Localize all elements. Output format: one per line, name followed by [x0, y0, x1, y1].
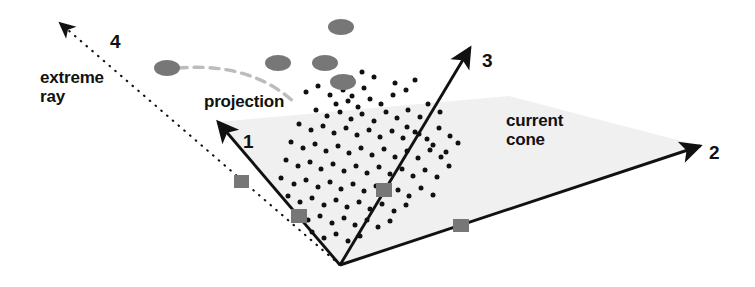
data-point-dot: [322, 236, 327, 241]
data-point-dot: [350, 94, 355, 99]
data-point-dot: [448, 134, 453, 139]
data-point-dot: [353, 223, 358, 228]
data-point-dot: [313, 142, 318, 147]
extreme-ray-label: extreme ray: [40, 68, 104, 106]
data-point-dot: [355, 133, 360, 138]
data-point-dot: [370, 153, 375, 158]
data-point-dot: [406, 108, 411, 113]
data-point-dot: [425, 137, 430, 142]
outer-point-ellipse: [330, 74, 356, 90]
data-point-dot: [405, 125, 410, 130]
data-point-dot: [393, 81, 398, 86]
data-point-dot: [376, 225, 381, 230]
data-point-dot: [334, 232, 339, 237]
data-point-dot: [426, 102, 431, 107]
data-point-dot: [367, 128, 372, 133]
data-point-dot: [304, 178, 309, 183]
projected-point-square: [453, 219, 469, 232]
data-point-dot: [346, 99, 351, 104]
data-point-dot: [346, 239, 351, 244]
data-point-dot: [351, 182, 356, 187]
data-point-dot: [314, 108, 319, 113]
data-point-dot: [393, 155, 398, 160]
data-point-dot: [357, 200, 362, 205]
data-point-dot: [388, 172, 393, 177]
data-point-dot: [391, 93, 396, 98]
data-point-dot: [365, 171, 370, 176]
data-point-dot: [331, 162, 336, 167]
data-point-dot: [301, 146, 306, 151]
data-point-dot: [344, 126, 349, 131]
data-point-dot: [435, 175, 440, 180]
data-point-dot: [447, 164, 452, 169]
data-point-dot: [321, 124, 326, 129]
data-point-dot: [347, 151, 352, 156]
data-point-dot: [456, 141, 461, 146]
data-point-dot: [382, 147, 387, 152]
data-point-dot: [359, 146, 364, 151]
outer-point-ellipse: [154, 60, 180, 76]
data-point-dot: [297, 122, 302, 127]
data-point-dot: [308, 160, 313, 165]
current-cone-region: [218, 96, 700, 265]
data-point-dot: [336, 144, 341, 149]
data-point-dot: [319, 167, 324, 172]
data-point-dot: [392, 209, 397, 214]
data-point-dot: [324, 149, 329, 154]
data-point-dot: [388, 219, 393, 224]
data-point-dot: [360, 70, 365, 75]
data-point-dot: [334, 198, 339, 203]
data-point-dot: [439, 155, 444, 160]
data-point-dot: [418, 115, 423, 120]
data-point-dot: [339, 187, 344, 192]
outer-point-ellipse: [265, 55, 291, 71]
data-point-dot: [407, 194, 412, 199]
data-point-dot: [379, 102, 384, 107]
data-point-dot: [334, 102, 339, 107]
data-point-dot: [309, 128, 314, 133]
data-point-dot: [404, 203, 409, 208]
data-point-dot: [444, 150, 449, 155]
data-point-dot: [416, 156, 421, 161]
data-point-dot: [342, 216, 347, 221]
data-point-dot: [377, 165, 382, 170]
projected-point-square: [291, 209, 307, 223]
data-point-dot: [362, 189, 367, 194]
data-point-dot: [419, 186, 424, 191]
current-cone-label: current cone: [506, 111, 563, 149]
outer-point-ellipse: [312, 55, 338, 71]
cone-shaded-area: [218, 96, 700, 265]
data-point-dot: [384, 110, 389, 115]
data-point-dot: [431, 193, 436, 198]
data-point-dot: [372, 75, 377, 80]
data-point-dot: [396, 188, 401, 193]
data-point-dot: [372, 119, 377, 124]
data-point-dot: [298, 200, 303, 205]
data-point-dot: [380, 202, 385, 207]
data-point-dot: [349, 117, 354, 122]
data-point-dot: [360, 112, 365, 117]
data-point-dot: [413, 78, 418, 83]
data-point-dot: [431, 143, 436, 148]
data-point-dot: [316, 84, 321, 89]
outer-point-ellipse: [328, 19, 354, 35]
outer-point-markers: [154, 19, 356, 90]
data-point-dot: [325, 114, 330, 119]
data-point-dot: [368, 97, 373, 102]
data-point-dot: [401, 136, 406, 141]
data-point-dot: [316, 185, 321, 190]
data-point-dot: [296, 164, 301, 169]
data-point-dot: [289, 140, 294, 145]
data-point-dot: [310, 196, 315, 201]
axis-label-2: 2: [709, 142, 719, 163]
data-point-dot: [345, 205, 350, 210]
data-point-dot: [423, 168, 428, 173]
data-point-dot: [332, 131, 337, 136]
data-point-dot: [286, 194, 291, 199]
data-point-dot: [338, 110, 343, 115]
projection-label: projection: [204, 92, 284, 111]
data-point-dot: [342, 169, 347, 174]
projected-point-square: [376, 183, 392, 197]
data-point-dot: [390, 129, 395, 134]
data-point-dot: [279, 176, 284, 181]
